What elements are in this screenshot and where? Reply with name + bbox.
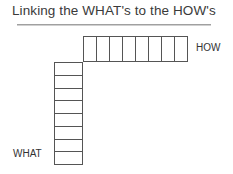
what-cell <box>55 101 82 114</box>
how-grid <box>83 36 188 62</box>
what-cell <box>55 114 82 127</box>
how-cell <box>123 37 136 61</box>
how-cell <box>175 37 187 61</box>
how-cell <box>84 37 97 61</box>
what-cell <box>55 89 82 102</box>
how-cell <box>110 37 123 61</box>
what-cell <box>55 63 82 76</box>
title-underline <box>17 24 211 26</box>
how-cell <box>136 37 149 61</box>
what-cell <box>55 76 82 89</box>
how-cell <box>162 37 175 61</box>
how-label: HOW <box>196 42 220 53</box>
how-cell <box>149 37 162 61</box>
diagram-title: Linking the WHAT's to the HOW's <box>12 3 222 18</box>
what-grid <box>54 62 83 165</box>
what-label: WHAT <box>13 148 42 159</box>
how-cell <box>97 37 110 61</box>
what-cell <box>55 152 82 164</box>
what-cell <box>55 127 82 140</box>
what-cell <box>55 140 82 153</box>
